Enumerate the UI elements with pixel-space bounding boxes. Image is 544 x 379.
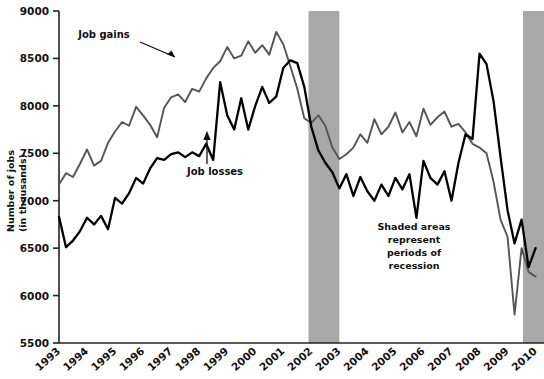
job-gains-arrow-head xyxy=(167,51,175,58)
recession-note-line-1: Shaded areas xyxy=(378,221,451,232)
x-tick-label-2004: 2004 xyxy=(341,345,371,373)
x-tick-label-1998: 1998 xyxy=(173,345,203,373)
x-tick-label-2001: 2001 xyxy=(257,345,287,373)
recession-note-line-3: periods of xyxy=(387,247,442,258)
recession-note-line-4: recession xyxy=(388,260,439,271)
x-tick-label-2008: 2008 xyxy=(453,345,483,373)
y-tick-label-6000: 6000 xyxy=(20,290,49,302)
x-tick-label-2006: 2006 xyxy=(397,345,427,373)
x-tick-label-2002: 2002 xyxy=(285,345,315,373)
y-tick-label-8500: 8500 xyxy=(20,52,49,64)
y-tick-label-6500: 6500 xyxy=(20,242,49,254)
x-tick-label-1997: 1997 xyxy=(145,345,175,373)
y-tick-label-5500: 5500 xyxy=(20,337,49,349)
x-tick-label-1994: 1994 xyxy=(61,345,91,373)
x-tick-label-2005: 2005 xyxy=(369,345,399,373)
y-tick-label-9000: 9000 xyxy=(20,5,49,17)
y-axis-title-line1: Number of jobs xyxy=(5,150,16,232)
x-tick-label-2003: 2003 xyxy=(313,345,343,373)
x-tick-label-1995: 1995 xyxy=(89,345,119,373)
y-axis-ticks xyxy=(53,11,59,343)
x-tick-label-2007: 2007 xyxy=(425,345,455,373)
y-axis-title: Number of jobs (in thousands) xyxy=(5,150,28,232)
series-lines xyxy=(59,32,536,315)
y-tick-label-8000: 8000 xyxy=(20,100,49,112)
x-axis-tick-labels: 1993199419951996199719981999200020012002… xyxy=(33,345,539,373)
x-tick-label-2000: 2000 xyxy=(229,345,259,373)
x-tick-label-1996: 1996 xyxy=(117,345,147,373)
x-axis: 1993199419951996199719981999200020012002… xyxy=(33,343,544,373)
job-losses-arrow-head xyxy=(203,131,210,140)
recession-note-line-2: represent xyxy=(388,234,441,245)
y-axis-title-line2: (in thousands) xyxy=(17,154,28,232)
job-gains-line xyxy=(59,32,536,315)
annotations: Job gains Job losses Shaded areas repres… xyxy=(77,29,451,271)
x-tick-label-2010: 2010 xyxy=(509,345,539,373)
x-tick-label-1999: 1999 xyxy=(201,345,231,373)
job-losses-label: Job losses xyxy=(186,166,243,177)
chart-container: 55006000650070007500800085009000 1993199… xyxy=(0,0,544,379)
job-gains-label: Job gains xyxy=(77,29,130,40)
jobs-line-chart: 55006000650070007500800085009000 1993199… xyxy=(0,0,544,379)
x-tick-label-2009: 2009 xyxy=(481,345,511,373)
recession-band-2 xyxy=(523,11,544,343)
